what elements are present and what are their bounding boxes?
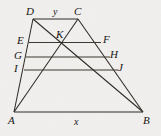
- label-K: K: [56, 29, 63, 40]
- label-E: E: [17, 35, 24, 46]
- label-F: F: [103, 34, 110, 45]
- label-J: J: [118, 62, 123, 73]
- label-x: x: [74, 117, 78, 127]
- geometry-figure: D y C E K F G H I J A x B: [0, 0, 161, 136]
- label-D: D: [26, 6, 34, 17]
- label-I: I: [14, 63, 18, 74]
- label-C: C: [74, 6, 81, 17]
- label-B: B: [143, 115, 150, 126]
- label-G: G: [14, 50, 22, 61]
- figure-canvas: [0, 0, 161, 136]
- label-A: A: [8, 115, 15, 126]
- label-H: H: [110, 49, 118, 60]
- label-y: y: [53, 7, 57, 17]
